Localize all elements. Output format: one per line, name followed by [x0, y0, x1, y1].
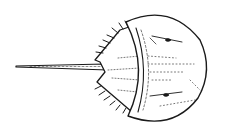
upper-eye — [166, 39, 171, 41]
carapace — [126, 15, 207, 121]
horseshoe-crab-drawing — [0, 0, 226, 136]
lower-eye — [164, 94, 169, 96]
telson-tail — [16, 64, 108, 70]
horseshoe-crab-illustration: horseshoe crab line drawing — [0, 0, 226, 136]
